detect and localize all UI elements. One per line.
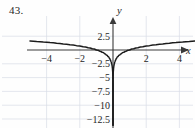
y-tick-label: −10 xyxy=(94,100,110,111)
y-tick-label: −12.5 xyxy=(87,114,110,125)
figure-container: 43. −4−2242.5−2.5−5−7.5−10−12.5 x y xyxy=(0,0,195,128)
x-axis-label: x xyxy=(185,45,191,56)
y-axis-arrow-icon xyxy=(110,17,117,24)
y-axis-label: y xyxy=(116,5,122,16)
y-tick-label: 2.5 xyxy=(98,31,111,42)
coordinate-plot: −4−2242.5−2.5−5−7.5−10−12.5 x y xyxy=(0,0,195,128)
curve-right-branch xyxy=(113,41,195,125)
x-tick-label: −2 xyxy=(74,53,85,64)
y-tick-label: −5 xyxy=(99,72,110,83)
x-tick-label: 4 xyxy=(177,53,182,64)
y-tick-label: −2.5 xyxy=(92,58,110,69)
x-tick-label: −4 xyxy=(41,53,52,64)
x-tick-label: 2 xyxy=(144,53,149,64)
y-tick-label: −7.5 xyxy=(92,86,110,97)
